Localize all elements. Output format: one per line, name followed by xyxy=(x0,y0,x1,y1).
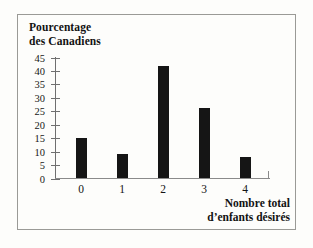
y-tick-label: 0 xyxy=(23,179,45,180)
y-axis-title: Pourcentage des Canadiens xyxy=(29,21,101,48)
x-tick-label: 3 xyxy=(201,183,207,195)
x-tick-label: 4 xyxy=(242,183,248,195)
y-tick: 45 xyxy=(51,58,60,59)
y-tick: 15 xyxy=(51,138,60,139)
x-axis-title-line2: d’enfants désirés xyxy=(207,211,290,223)
y-axis-title-line1: Pourcentage xyxy=(29,21,91,33)
y-tick-label: 10 xyxy=(23,152,45,153)
y-tick: 20 xyxy=(51,125,60,126)
bar xyxy=(240,157,251,179)
y-tick-label: 15 xyxy=(23,138,45,139)
bar xyxy=(199,108,210,178)
bar xyxy=(76,138,87,178)
y-axis-line xyxy=(55,57,56,179)
x-axis-title-line1: Nombre total xyxy=(225,197,290,209)
y-tick-label: 45 xyxy=(23,58,45,59)
y-tick: 10 xyxy=(51,152,60,153)
x-tick-label: 1 xyxy=(119,183,125,195)
y-tick-label: 20 xyxy=(23,125,45,126)
y-axis-title-line2: des Canadiens xyxy=(29,35,101,47)
bar xyxy=(117,154,128,178)
y-tick: 30 xyxy=(51,98,60,99)
y-tick: 35 xyxy=(51,84,60,85)
y-tick: 5 xyxy=(51,165,60,166)
y-tick-label: 40 xyxy=(23,71,45,72)
x-axis-line xyxy=(55,178,270,179)
x-tick-label: 2 xyxy=(160,183,166,195)
y-tick: 0 xyxy=(51,179,60,180)
x-axis-end-tick xyxy=(268,171,269,179)
y-tick-label: 5 xyxy=(23,165,45,166)
plot-area: 454035302520151050 01234 xyxy=(55,57,270,179)
y-tick-label: 35 xyxy=(23,84,45,85)
y-tick: 25 xyxy=(51,111,60,112)
y-tick: 40 xyxy=(51,71,60,72)
y-tick-label: 25 xyxy=(23,111,45,112)
x-tick-label: 0 xyxy=(78,183,84,195)
figure: Pourcentage des Canadiens 45403530252015… xyxy=(0,0,313,248)
y-tick-label: 30 xyxy=(23,98,45,99)
x-axis-title: Nombre total d’enfants désirés xyxy=(142,196,290,224)
bar xyxy=(158,66,169,178)
